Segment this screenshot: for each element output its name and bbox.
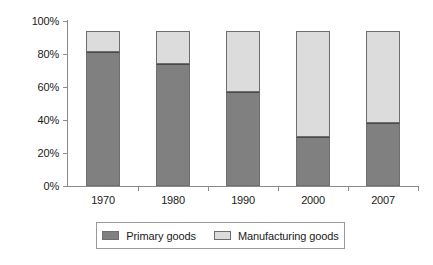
bar-segment[interactable]	[226, 92, 260, 186]
x-axis-tick	[418, 186, 419, 191]
x-axis-tick-label: 1980	[161, 194, 185, 206]
legend-swatch-manufacturing-goods	[214, 231, 231, 240]
bar-segment[interactable]	[296, 137, 330, 187]
y-axis-tick-label: 20%	[38, 147, 59, 159]
x-axis-tick-label: 1990	[231, 194, 255, 206]
x-axis-tick	[138, 186, 139, 191]
bar-segment[interactable]	[156, 31, 190, 64]
bar-stack[interactable]	[156, 21, 190, 186]
y-axis-tick	[63, 120, 68, 121]
y-axis-tick-label: 40%	[38, 114, 59, 126]
x-axis-tick	[348, 186, 349, 191]
bar-segment[interactable]	[226, 31, 260, 92]
bar-segment[interactable]	[296, 31, 330, 137]
y-axis-tick-label: 60%	[38, 81, 59, 93]
bar-segment[interactable]	[366, 31, 400, 123]
y-axis-tick	[63, 186, 68, 187]
bar-segment[interactable]	[156, 64, 190, 186]
bar-segment[interactable]	[86, 52, 120, 186]
x-axis-tick-label: 2000	[301, 194, 325, 206]
bar-segment[interactable]	[86, 31, 120, 52]
bar-stack[interactable]	[226, 21, 260, 186]
y-axis-tick	[63, 153, 68, 154]
bar-stack[interactable]	[296, 21, 330, 186]
chart-legend: Primary goods Manufacturing goods	[96, 222, 345, 249]
x-axis-tick-label: 1970	[91, 194, 115, 206]
bar-stack[interactable]	[86, 21, 120, 186]
bar-segment[interactable]	[366, 123, 400, 186]
y-axis-tick-label: 0%	[44, 180, 60, 192]
y-axis-tick	[63, 21, 68, 22]
y-axis-tick	[63, 54, 68, 55]
legend-swatch-primary-goods	[102, 231, 119, 240]
legend-item-manufacturing-goods: Manufacturing goods	[214, 230, 339, 242]
legend-label-manufacturing-goods: Manufacturing goods	[238, 230, 339, 242]
legend-label-primary-goods: Primary goods	[126, 230, 196, 242]
y-axis-tick-label: 100%	[32, 15, 59, 27]
x-axis-tick-label: 2007	[371, 194, 395, 206]
stacked-bar-chart: 0%20%40%60%80%100%19701980199020002007 P…	[0, 0, 433, 265]
x-axis-tick	[278, 186, 279, 191]
x-axis-line	[67, 186, 419, 187]
bar-stack[interactable]	[366, 21, 400, 186]
legend-item-primary-goods: Primary goods	[102, 230, 196, 242]
y-axis-tick-label: 80%	[38, 48, 59, 60]
x-axis-tick	[208, 186, 209, 191]
y-axis-tick	[63, 87, 68, 88]
plot-area: 0%20%40%60%80%100%19701980199020002007	[68, 21, 418, 186]
